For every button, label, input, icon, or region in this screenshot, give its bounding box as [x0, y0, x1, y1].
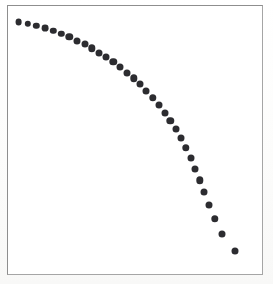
data-point: [178, 135, 185, 142]
data-point: [50, 28, 56, 34]
plot-data-area: [0, 0, 273, 284]
data-point: [123, 69, 130, 76]
data-point: [182, 144, 189, 151]
data-point: [166, 117, 173, 124]
scatter-plot-figure: [0, 0, 273, 284]
data-point: [66, 33, 73, 40]
data-point: [15, 19, 22, 26]
data-point: [117, 64, 124, 71]
data-point: [130, 74, 137, 81]
data-point: [211, 215, 218, 222]
data-point: [187, 155, 194, 162]
data-point: [88, 45, 95, 52]
data-point: [103, 54, 110, 61]
data-point: [58, 31, 64, 37]
data-point: [81, 41, 88, 48]
data-point: [172, 126, 179, 133]
data-point: [231, 247, 238, 254]
data-point: [219, 230, 226, 237]
data-point: [24, 21, 30, 27]
data-point: [96, 49, 103, 56]
data-point: [161, 109, 168, 116]
data-point: [74, 37, 81, 44]
data-point: [206, 202, 213, 209]
data-point: [196, 176, 203, 183]
data-point: [137, 81, 144, 88]
data-point: [110, 58, 117, 65]
data-point: [201, 189, 208, 196]
data-point: [143, 87, 150, 94]
data-point: [155, 102, 162, 109]
data-point: [192, 165, 199, 172]
data-point: [149, 94, 156, 101]
data-point: [33, 23, 39, 29]
data-point: [42, 25, 49, 32]
